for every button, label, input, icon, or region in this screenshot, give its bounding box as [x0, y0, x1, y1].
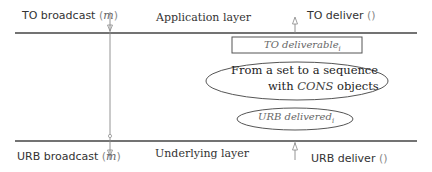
- cons-prefix: with: [268, 79, 297, 93]
- layer-diagram: TO broadcast (m) Application layer TO de…: [0, 0, 432, 172]
- to-broadcast-arg-m: m: [103, 9, 113, 22]
- urb-broadcast-marker-icon: [108, 134, 111, 137]
- to-deliver-arrow-icon: [293, 17, 298, 24]
- set-to-sequence-line2: with CONS objects: [268, 81, 379, 93]
- urb-broadcast-arg: (m): [102, 150, 121, 163]
- urb-deliver-arg: (): [379, 152, 388, 165]
- underlying-layer-title: Underlying layer: [155, 148, 249, 159]
- cons-italic: CONS: [297, 79, 333, 93]
- urb-deliver-text: URB deliver: [311, 152, 375, 165]
- urb-deliver-label: URB deliver (): [311, 153, 388, 164]
- to-broadcast-text: TO broadcast: [22, 9, 95, 22]
- urb-delivered-label: URB deliveredi: [258, 112, 334, 125]
- urb-broadcast-label: URB broadcast (m): [17, 151, 121, 162]
- urb-delivered-subscript: i: [332, 117, 334, 125]
- urb-broadcast-text: URB broadcast: [17, 150, 98, 163]
- to-deliver-text: TO deliver: [307, 9, 364, 22]
- set-to-sequence-line1: From a set to a sequence: [231, 65, 378, 77]
- to-deliver-arg: (): [367, 9, 376, 22]
- urb-delivered-text: URB delivered: [258, 111, 332, 122]
- to-broadcast-arg: (m): [99, 9, 118, 22]
- urb-deliver-arrow-icon: [293, 143, 298, 150]
- to-deliverable-text: TO deliverable: [264, 39, 339, 50]
- to-deliverable-subscript: i: [339, 45, 341, 53]
- cons-suffix: objects: [333, 79, 378, 93]
- to-broadcast-label: TO broadcast (m): [22, 10, 118, 21]
- to-deliver-label: TO deliver (): [307, 10, 376, 21]
- application-layer-title: Application layer: [156, 12, 251, 23]
- urb-broadcast-arg-m: m: [106, 150, 116, 163]
- to-deliverable-label: TO deliverablei: [264, 40, 341, 53]
